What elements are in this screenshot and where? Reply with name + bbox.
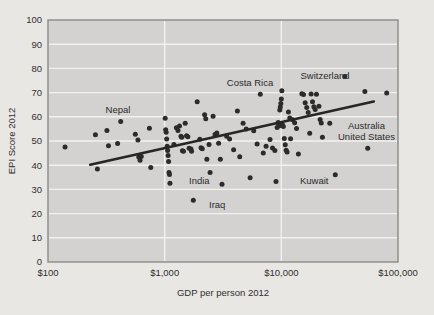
data-point (104, 128, 109, 133)
y-tick-label: 100 (26, 14, 42, 25)
data-point (177, 124, 182, 129)
data-point (362, 89, 367, 94)
data-point (303, 100, 308, 105)
data-point (261, 151, 266, 156)
data-point (189, 149, 194, 154)
data-point (281, 124, 286, 129)
annotation-nepal: Nepal (106, 104, 131, 115)
y-tick-label: 70 (31, 87, 42, 98)
data-point (216, 141, 221, 146)
data-point (268, 137, 273, 142)
data-point (147, 126, 152, 131)
data-point (286, 109, 291, 114)
data-point (304, 105, 309, 110)
x-axis-title: GDP per person 2012 (177, 287, 269, 298)
x-tick-label: $10,000 (264, 267, 298, 278)
data-point (248, 175, 253, 180)
data-point (237, 154, 242, 159)
data-point (207, 142, 212, 147)
data-point (384, 91, 389, 96)
data-point (310, 99, 315, 104)
data-point (166, 153, 171, 158)
annotation-united-states: United States (338, 131, 395, 142)
data-point (204, 157, 209, 162)
y-axis-title: EPI Score 2012 (6, 108, 17, 175)
data-point (163, 116, 168, 121)
data-point (283, 142, 288, 147)
data-point (288, 136, 293, 141)
data-point (166, 159, 171, 164)
data-point (135, 138, 140, 143)
data-point (227, 137, 232, 142)
data-point (164, 137, 169, 142)
y-tick-label: 20 (31, 208, 42, 219)
annotation-costa-rica: Costa Rica (227, 77, 274, 88)
data-point (313, 107, 318, 112)
data-point (115, 141, 120, 146)
y-tick-label: 0 (37, 256, 42, 267)
data-point (282, 136, 287, 141)
data-point (294, 126, 299, 131)
data-point (320, 135, 325, 140)
data-point (279, 96, 284, 101)
y-tick-label: 90 (31, 39, 42, 50)
data-point (200, 146, 205, 151)
data-point (235, 108, 240, 113)
y-tick-label: 60 (31, 111, 42, 122)
data-point (167, 181, 172, 186)
data-point (272, 148, 277, 153)
data-point (211, 114, 216, 119)
data-point (314, 92, 319, 97)
data-point (296, 152, 301, 157)
data-point (95, 167, 100, 172)
data-point (183, 121, 188, 126)
data-point (133, 132, 138, 137)
data-point (241, 121, 246, 126)
data-point (319, 121, 324, 126)
data-point (307, 131, 312, 136)
data-point (214, 131, 219, 136)
data-point (365, 146, 370, 151)
data-point (203, 116, 208, 121)
data-point (63, 145, 68, 150)
data-point (175, 128, 180, 133)
annotation-switzerland: Switzerland (300, 70, 349, 81)
x-tick-label: $100 (37, 267, 58, 278)
annotation-australia: Australia (348, 120, 386, 131)
y-tick-label: 30 (31, 184, 42, 195)
data-point (218, 157, 223, 162)
data-point (264, 144, 269, 149)
data-point (179, 135, 184, 140)
data-point (327, 121, 332, 126)
data-point (167, 172, 172, 177)
data-point (309, 92, 314, 97)
data-point (231, 147, 236, 152)
data-point (273, 179, 278, 184)
data-point (148, 165, 153, 170)
chart-svg: 0102030405060708090100 $100$1,000$10,000… (0, 0, 434, 315)
x-tick-label: $100,000 (378, 267, 418, 278)
data-point (106, 143, 111, 148)
y-tick-label: 40 (31, 160, 42, 171)
data-point (185, 134, 190, 139)
annotation-iraq: Iraq (209, 199, 225, 210)
data-point (118, 119, 123, 124)
y-tick-label: 10 (31, 232, 42, 243)
data-point (164, 130, 169, 135)
data-point (258, 92, 263, 97)
annotation-kuwait: Kuwait (300, 175, 329, 186)
data-point (181, 149, 186, 154)
annotation-india: India (189, 175, 210, 186)
x-tick-label: $1,000 (150, 267, 179, 278)
scatter-chart-figure: 0102030405060708090100 $100$1,000$10,000… (0, 0, 434, 315)
data-point (93, 132, 98, 137)
data-point (278, 101, 283, 106)
data-point (195, 99, 200, 104)
data-point (285, 149, 290, 154)
data-point (306, 110, 311, 115)
data-point (255, 141, 260, 146)
y-tick-label: 80 (31, 63, 42, 74)
data-point (333, 172, 338, 177)
data-point (292, 120, 297, 125)
data-point (191, 198, 196, 203)
